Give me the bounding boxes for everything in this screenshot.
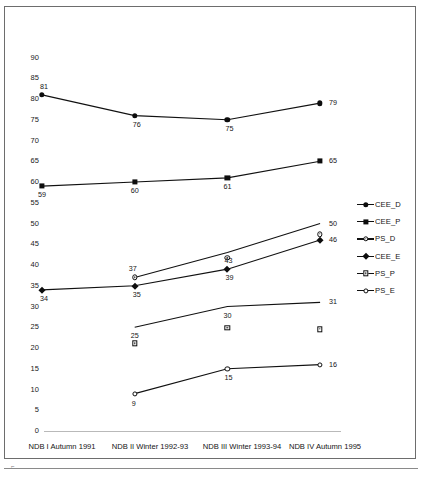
x-tick-label: NDB IV Autumn 1995 [265,442,385,451]
legend-item-label: CEE_E [375,252,400,261]
y-tick-label: 35 [23,282,39,290]
series-line [42,161,320,186]
data-point-marker [132,179,137,184]
data-point-marker [132,341,137,346]
figure-root: 908580757065605550454035302520151050 NDB… [0,0,423,483]
data-point-label: 25 [131,332,139,340]
y-tick-label: 55 [23,199,39,207]
y-tick-label: 80 [23,95,39,103]
legend-item-label: PS_E [375,286,395,295]
legend-item-ps_d[interactable]: PS_D [357,230,415,247]
data-point-label: 15 [224,374,232,382]
data-point-label: 76 [133,121,141,129]
data-point-label: 31 [329,298,337,306]
data-point-label: 81 [40,83,48,91]
data-point-label: 39 [225,274,233,282]
legend-item-cee_p[interactable]: CEE_P [357,213,415,230]
y-tick-label: 10 [23,386,39,394]
legend: CEE_DCEE_PPS_DCEE_EPS_PPS_E [357,196,415,299]
legend-item-ps_p[interactable]: PS_P [357,265,415,282]
y-tick-label: 75 [23,116,39,124]
data-point-label: 59 [38,191,46,199]
y-tick-label: 90 [23,54,39,62]
y-tick-label: 70 [23,137,39,145]
data-point-label: 35 [133,291,141,299]
legend-marker-icon [357,285,374,297]
legend-marker-icon [357,233,374,245]
legend-marker-icon [357,216,374,228]
data-point-label: 9 [132,400,136,408]
legend-item-label: CEE_D [375,200,401,209]
data-point-label: 65 [329,157,337,165]
data-point-marker [317,327,322,332]
data-point-marker [318,159,323,164]
legend-item-label: CEE_P [375,217,400,226]
y-tick-label: 40 [23,261,39,269]
data-point-label: 34 [40,295,48,303]
data-point-label: 60 [131,187,139,195]
legend-item-label: PS_P [375,269,395,278]
data-point-marker [39,184,44,189]
data-point-marker [225,325,230,330]
data-point-label: 75 [225,125,233,133]
y-tick-label: 5 [23,406,39,414]
legend-marker-icon [357,267,374,279]
data-point-label: 16 [329,361,337,369]
data-point-label: 30 [223,312,231,320]
page-corner-tick: ⌐ [11,463,16,469]
legend-item-cee_e[interactable]: CEE_E [357,248,415,265]
y-tick-label: 65 [23,157,39,165]
data-point-label: 79 [329,99,337,107]
legend-item-ps_e[interactable]: PS_E [357,282,415,299]
y-tick-label: 45 [23,240,39,248]
data-point-label: 37 [129,265,137,273]
page-underline [4,468,418,469]
data-point-label: 61 [223,183,231,191]
y-tick-label: 0 [23,427,39,435]
y-tick-label: 60 [23,178,39,186]
y-tick-label: 15 [23,365,39,373]
data-point-label: 43 [224,257,232,265]
data-point-marker [225,175,230,180]
y-tick-label: 30 [23,303,39,311]
data-point-label: 50 [329,220,337,228]
legend-marker-icon [357,199,374,211]
y-tick-label: 50 [23,220,39,228]
data-point-label: 46 [329,236,337,244]
series-line [42,95,320,120]
y-tick-label: 20 [23,344,39,352]
y-tick-label: 25 [23,323,39,331]
legend-item-cee_d[interactable]: CEE_D [357,196,415,213]
legend-item-label: PS_D [375,234,395,243]
y-tick-label: 85 [23,74,39,82]
legend-marker-icon [357,250,374,262]
